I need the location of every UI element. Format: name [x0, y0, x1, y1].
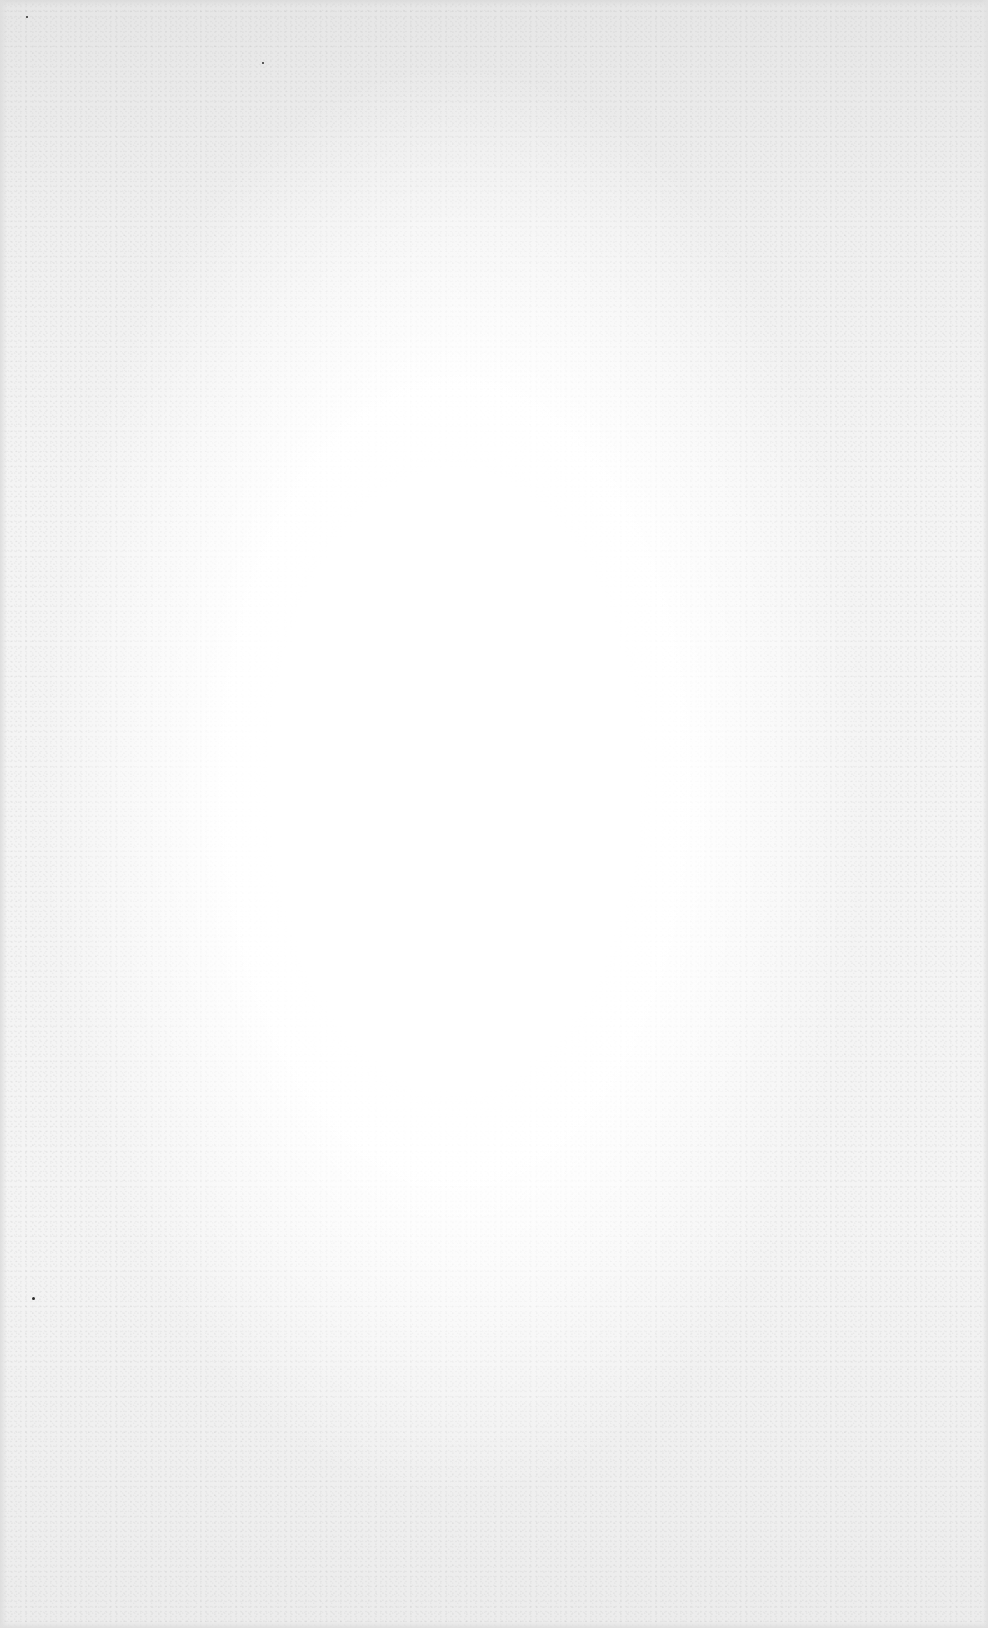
page-edge-left — [0, 0, 7, 1628]
page-edge-top — [0, 0, 988, 6]
dust-speck — [26, 16, 28, 18]
blank-paper-page — [0, 0, 988, 1628]
paper-grain-texture — [0, 0, 988, 1628]
dust-speck — [32, 1297, 35, 1300]
page-edge-right — [982, 0, 988, 1628]
dust-speck — [262, 62, 264, 64]
page-edge-bottom — [0, 1622, 988, 1628]
